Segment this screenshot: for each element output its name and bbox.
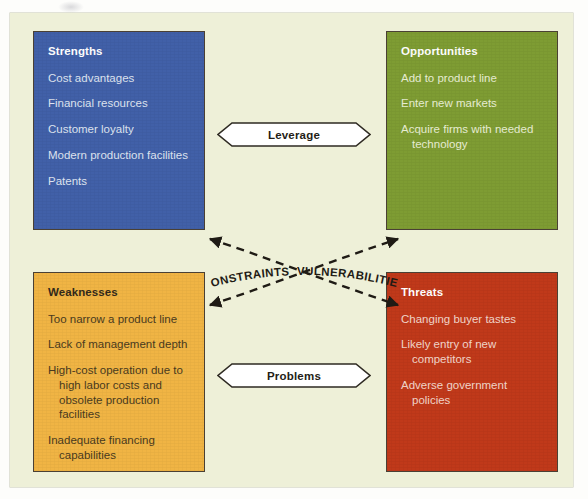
quadrant-strengths-item: Financial resources	[48, 96, 190, 111]
quadrant-opportunities-item: Enter new markets	[401, 96, 543, 111]
connector-problems-banner[interactable]: Problems	[217, 363, 371, 388]
quadrant-opportunities-item: Acquire firms with needed technology	[401, 122, 543, 151]
cross-labels: CONSTRAINTS VULNERABILITIES	[196, 227, 399, 289]
quadrant-threats-title: Threats	[401, 286, 543, 299]
quadrant-threats-item: Likely entry of new competitors	[401, 337, 543, 366]
scan-artifact	[58, 1, 84, 13]
connector-problems-label: Problems	[267, 370, 321, 382]
quadrant-threats-item: Changing buyer tastes	[401, 312, 543, 327]
quadrant-weaknesses-item: Lack of management depth	[48, 337, 190, 352]
swot-diagram-panel: Strengths Cost advantages Financial reso…	[10, 13, 573, 487]
quadrant-strengths-item: Cost advantages	[48, 71, 190, 86]
scanned-page: Strengths Cost advantages Financial reso…	[0, 0, 588, 499]
quadrant-strengths[interactable]: Strengths Cost advantages Financial reso…	[33, 31, 205, 230]
quadrant-weaknesses-title: Weaknesses	[48, 286, 190, 299]
quadrant-opportunities[interactable]: Opportunities Add to product line Enter …	[386, 31, 558, 230]
quadrant-opportunities-title: Opportunities	[401, 45, 543, 58]
quadrant-weaknesses-item: Too narrow a product line	[48, 312, 190, 327]
quadrant-weaknesses[interactable]: Weaknesses Too narrow a product line Lac…	[33, 272, 205, 472]
quadrant-strengths-title: Strengths	[48, 45, 190, 58]
connector-leverage-banner[interactable]: Leverage	[217, 122, 371, 147]
quadrant-weaknesses-item: Inadequate financing capabilities	[48, 433, 190, 462]
connector-leverage-label: Leverage	[268, 129, 320, 141]
quadrant-strengths-item: Modern production facilities	[48, 148, 190, 163]
quadrant-opportunities-item: Add to product line	[401, 71, 543, 86]
cross-connectors: CONSTRAINTS VULNERABILITIES	[196, 227, 412, 337]
quadrant-threats-item: Adverse government policies	[401, 378, 543, 407]
quadrant-weaknesses-item: High-cost operation due to high labor co…	[48, 363, 190, 422]
quadrant-strengths-item: Patents	[48, 174, 190, 189]
paper-texture	[387, 273, 557, 471]
quadrant-strengths-item: Customer loyalty	[48, 122, 190, 137]
